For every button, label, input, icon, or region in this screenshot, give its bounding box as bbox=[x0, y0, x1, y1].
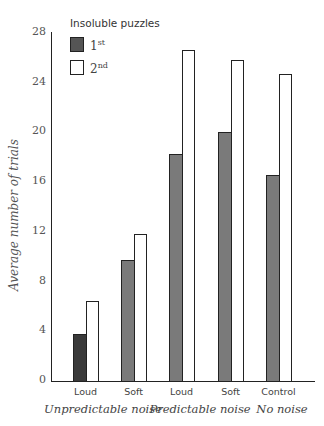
bar-control-1st bbox=[266, 175, 280, 382]
bar-loud-2nd bbox=[86, 301, 100, 382]
y-tick-label: 8 bbox=[16, 274, 46, 287]
legend-swatch-1st bbox=[70, 37, 84, 52]
bar-soft-2nd bbox=[134, 234, 148, 382]
bar-soft-1st bbox=[218, 132, 232, 382]
y-axis-label: Average number of trials bbox=[7, 139, 21, 291]
bar-control-2nd bbox=[279, 74, 293, 382]
y-tick-label: 28 bbox=[16, 25, 46, 38]
y-tick-label: 4 bbox=[16, 323, 46, 336]
bar-loud-1st bbox=[169, 154, 183, 382]
x-category-label: Loud bbox=[61, 386, 111, 397]
bar-loud-2nd bbox=[182, 50, 196, 382]
legend-label-1st: 1st bbox=[90, 38, 105, 53]
legend-swatch-2nd bbox=[70, 60, 84, 75]
y-axis bbox=[51, 32, 52, 382]
y-tick-label: 0 bbox=[16, 373, 46, 386]
bar-soft-1st bbox=[121, 260, 135, 382]
y-tick-label: 20 bbox=[16, 124, 46, 137]
x-category-label: Loud bbox=[157, 386, 207, 397]
y-tick-label: 16 bbox=[16, 174, 46, 187]
x-category-label: Soft bbox=[206, 386, 256, 397]
x-group-label: Predictable noise bbox=[149, 402, 250, 416]
bar-soft-2nd bbox=[231, 60, 245, 382]
legend-label-2nd: 2nd bbox=[90, 61, 108, 76]
legend-title: Insoluble puzzles bbox=[70, 17, 160, 29]
x-group-label: No noise bbox=[256, 402, 307, 416]
y-tick-label: 12 bbox=[16, 224, 46, 237]
bar-loud-1st bbox=[73, 334, 87, 382]
x-category-label: Control bbox=[254, 386, 304, 397]
y-tick-label: 24 bbox=[16, 75, 46, 88]
x-category-label: Soft bbox=[109, 386, 159, 397]
x-group-label: Unpredictable noise bbox=[44, 402, 162, 416]
